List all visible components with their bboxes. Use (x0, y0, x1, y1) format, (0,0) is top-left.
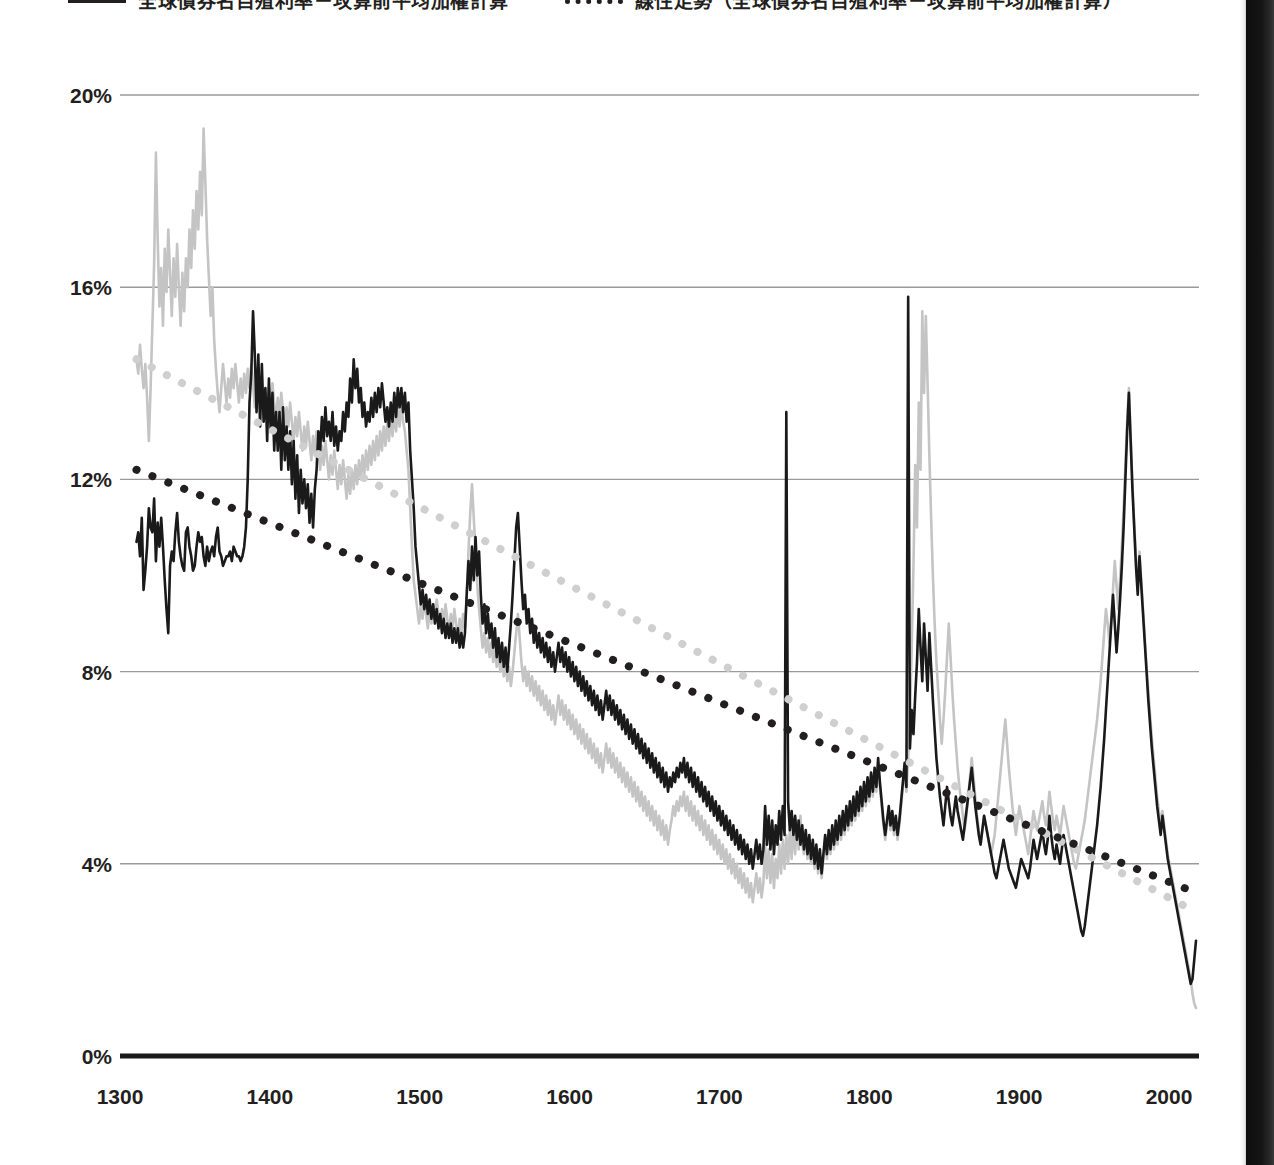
chart-figure: 全球債券名目殖利率－攻算前平均加權計算 線性走勢（全球債券名目殖利率－攻算前平均… (0, 0, 1274, 1165)
x-tick-label: 1800 (846, 1086, 893, 1107)
x-tick-label: 1400 (247, 1086, 294, 1107)
x-tick-label: 1300 (97, 1086, 144, 1107)
x-tick-label: 1900 (996, 1086, 1043, 1107)
page-edge-dark-band (1246, 0, 1274, 1165)
chart-x-axis-labels: 13001400150016001700180019002000 (0, 0, 1274, 1165)
x-tick-label: 1600 (546, 1086, 593, 1107)
x-tick-label: 2000 (1146, 1086, 1193, 1107)
x-tick-label: 1500 (396, 1086, 443, 1107)
x-tick-label: 1700 (696, 1086, 743, 1107)
